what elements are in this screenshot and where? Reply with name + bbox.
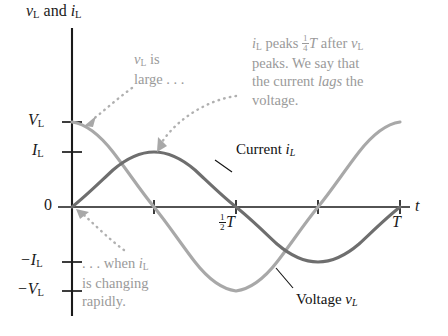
- x-tick-label-half-T: 12T: [219, 213, 235, 232]
- y-tick-label-v-peak: VL: [28, 111, 44, 129]
- x-axis-label: t: [415, 197, 419, 215]
- leader-line-current: [215, 160, 232, 172]
- y-tick-label-zero: 0: [44, 196, 52, 214]
- annotation-arrow-v-large: [84, 88, 132, 127]
- y-tick-label-neg-i-peak: −IL: [20, 251, 43, 269]
- current-curve-label: Current iL: [236, 141, 295, 158]
- y-tick-label-neg-v-peak: −VL: [17, 280, 44, 298]
- annotation-arrow-changing: [76, 209, 124, 250]
- annotation-arrow-lags: [157, 96, 236, 152]
- annotation-current-lags: iL peaks 14T after vL peaks. We say that…: [252, 34, 442, 109]
- voltage-curve-label: Voltage vL: [296, 291, 358, 308]
- leader-line-voltage: [276, 268, 293, 288]
- x-tick-label-full-T: T: [392, 213, 401, 231]
- inductor-voltage-current-figure: vL and iL t VL IL 0 −IL −VL 12T T Curren…: [0, 0, 448, 336]
- annotation-changing-rapidly: . . . when iL is changing rapidly.: [82, 254, 202, 311]
- annotation-v-large: vL is large . . .: [134, 50, 244, 88]
- y-tick-label-i-peak: IL: [32, 141, 44, 159]
- axis-title: vL and iL: [26, 2, 82, 20]
